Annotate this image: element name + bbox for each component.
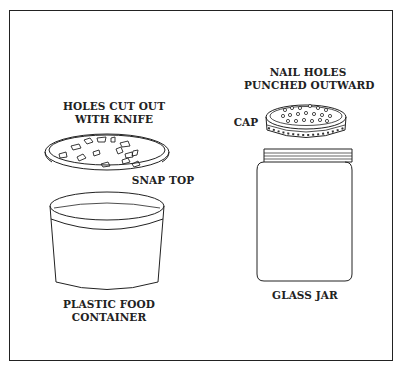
holes-cut-label: HOLES CUT OUT WITH KNIFE	[62, 100, 166, 126]
cap-label: CAP	[230, 116, 262, 129]
plastic-container-label: PLASTIC FOOD CONTAINER	[54, 298, 164, 324]
jar-cap-icon	[266, 104, 346, 137]
nail-holes-label: NAIL HOLES PUNCHED OUTWARD	[244, 66, 372, 92]
glass-jar-icon	[257, 149, 352, 281]
glass-jar-label: GLASS JAR	[260, 289, 350, 302]
snap-top-label: SNAP TOP	[128, 174, 198, 187]
snap-top-lid-icon	[45, 134, 169, 170]
plastic-container-icon	[50, 192, 164, 290]
